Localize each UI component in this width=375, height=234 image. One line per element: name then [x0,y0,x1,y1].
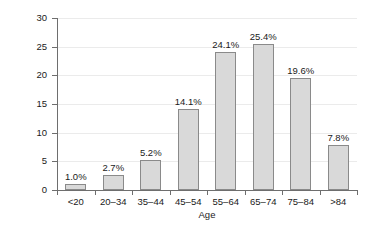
y-axis-tick [52,47,57,48]
y-axis-tick [52,75,57,76]
bar-value-label: 25.4% [233,31,293,42]
y-axis-tick-label: 5 [7,156,47,166]
y-axis-tick [52,104,57,105]
y-axis-tick [52,133,57,134]
bar [328,145,349,190]
bar-value-label: 19.6% [271,65,331,76]
x-axis-tick [320,191,321,195]
x-axis-tick [357,191,358,195]
bar-value-label: 14.1% [158,96,218,107]
bar [103,175,124,190]
x-axis-tick [282,191,283,195]
bar [140,160,161,190]
y-axis-tick-label: 25 [7,42,47,52]
x-axis-tick [57,191,58,195]
y-axis-tick-label: 15 [7,99,47,109]
y-axis-tick [52,161,57,162]
bar-value-label: 1.0% [46,171,106,182]
bar-chart-figure: Percent of New Cases 051015202530 <2020–… [0,0,375,234]
x-axis-tick [207,191,208,195]
bar-value-label: 5.2% [121,147,181,158]
y-axis-tick-label: 10 [7,128,47,138]
x-axis-tick [95,191,96,195]
x-axis-tick [132,191,133,195]
y-axis-tick [52,18,57,19]
bar [215,52,236,190]
bar-value-label: 7.8% [308,132,368,143]
x-axis-title: Age [57,209,357,220]
bar [178,109,199,190]
x-axis-tick [245,191,246,195]
y-axis-tick-label: 30 [7,13,47,23]
y-axis-tick-label: 20 [7,70,47,80]
y-axis-line [57,18,58,190]
gridline [57,18,357,19]
x-axis-tick [170,191,171,195]
x-axis-tick-label: >84 [308,196,368,208]
bar-value-label: 2.7% [83,162,143,173]
y-axis-tick-label: 0 [7,185,47,195]
